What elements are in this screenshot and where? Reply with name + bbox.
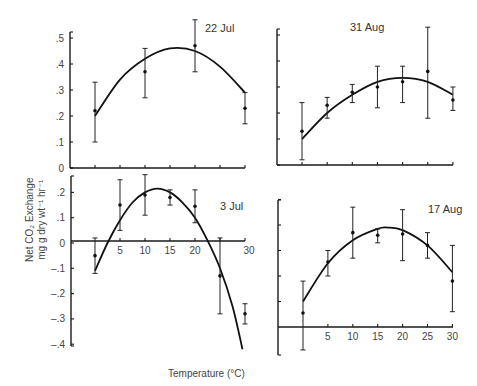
panel-3-jul: .2.10–.1–.2–.3–.45101520303 Jul — [51, 175, 255, 350]
data-point — [451, 98, 455, 102]
x-tick-label: 30 — [243, 245, 255, 256]
data-point — [401, 232, 405, 236]
data-point — [143, 193, 147, 197]
data-point — [93, 109, 97, 113]
data-point — [243, 312, 247, 316]
panel-date-label: 22 Jul — [205, 22, 234, 34]
y-axis-label-line2: mg g dry wt⁻¹ hr⁻¹ — [36, 178, 48, 262]
data-point — [351, 231, 355, 235]
data-point — [376, 233, 380, 237]
panel-date-label: 31 Aug — [350, 21, 384, 33]
data-point — [301, 311, 305, 315]
y-tick-label: 0 — [59, 238, 65, 249]
y-tick-label: –.4 — [51, 339, 65, 350]
data-point — [376, 85, 380, 89]
data-point — [300, 129, 304, 133]
x-tick-label: 25 — [422, 331, 434, 342]
y-tick-label: .3 — [56, 85, 65, 96]
panel-31-aug: 31 Aug — [277, 21, 455, 165]
x-tick-label: 5 — [117, 245, 123, 256]
y-tick-label: –.3 — [51, 313, 65, 324]
y-tick-label: .1 — [57, 212, 66, 223]
data-point — [401, 80, 405, 84]
data-point — [193, 205, 197, 209]
y-axis-label-line1: Net CO₂ Exchange — [24, 178, 36, 262]
x-tick-label: 20 — [189, 245, 201, 256]
x-tick-label: 20 — [397, 331, 409, 342]
y-tick-label: .5 — [56, 33, 65, 44]
co2-exchange-figure: .5.4.3.2.1022 Jul 31 Aug .2.10–.1–.2–.3–… — [0, 0, 477, 386]
y-tick-label: .1 — [56, 137, 65, 148]
data-point — [93, 254, 97, 258]
y-tick-label: –.2 — [51, 288, 65, 299]
x-tick-label: 10 — [139, 245, 151, 256]
y-tick-label: .2 — [57, 187, 66, 198]
data-point — [118, 203, 122, 207]
y-tick-label: 0 — [58, 163, 64, 174]
y-tick-label: .2 — [56, 111, 65, 122]
y-tick-label: –.1 — [51, 263, 65, 274]
y-tick-label: .4 — [56, 59, 65, 70]
data-point — [193, 44, 197, 48]
y-axis-label: Net CO₂ Exchange mg g dry wt⁻¹ hr⁻¹ — [24, 178, 48, 262]
x-tick-label: 30 — [447, 331, 459, 342]
panel-date-label: 3 Jul — [220, 200, 243, 212]
x-tick-label: 15 — [164, 245, 176, 256]
data-point — [168, 196, 172, 200]
fit-curve — [95, 48, 245, 116]
x-tick-label: 10 — [347, 331, 359, 342]
data-point — [426, 244, 430, 248]
data-point — [351, 90, 355, 94]
x-tick-label: 15 — [372, 331, 384, 342]
data-point — [325, 103, 329, 107]
data-point — [143, 70, 147, 74]
x-axis-label: Temperature (°C) — [168, 368, 245, 379]
data-point — [243, 106, 247, 110]
data-point — [426, 70, 430, 74]
x-tick-label: 5 — [325, 331, 331, 342]
panel-22-jul: .5.4.3.2.1022 Jul — [56, 20, 248, 174]
data-point — [218, 274, 222, 278]
panel-date-label: 17 Aug — [428, 203, 462, 215]
data-point — [326, 260, 330, 264]
data-point — [451, 279, 455, 283]
panel-17-aug: 5101520253017 Aug — [278, 200, 462, 356]
